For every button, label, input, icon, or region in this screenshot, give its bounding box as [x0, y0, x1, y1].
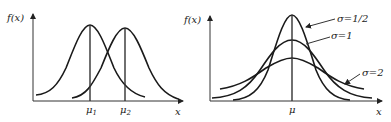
- pointer-sigma-half: [306, 19, 335, 27]
- normal-distribution-diagram: f(x) x μ1 μ2 f(x) x μ σ=1/2 σ=1 σ=2: [0, 0, 391, 122]
- mu-label: μ: [289, 104, 296, 115]
- pointer-sigma-2: [345, 74, 360, 84]
- left-y-label: f(x): [6, 12, 24, 23]
- sigma-2-label: σ=2: [362, 67, 384, 78]
- right-y-label: f(x): [183, 14, 201, 25]
- mu1-label: μ1: [86, 104, 97, 117]
- sigma-half-label: σ=1/2: [337, 13, 368, 24]
- left-panel: [33, 14, 183, 101]
- pointer-sigma-1: [306, 37, 330, 44]
- mu2-label: μ2: [120, 104, 132, 117]
- right-panel: [210, 15, 382, 101]
- sigma-1-label: σ=1: [331, 30, 353, 41]
- right-x-label: x: [376, 106, 382, 117]
- left-x-label: x: [175, 106, 181, 117]
